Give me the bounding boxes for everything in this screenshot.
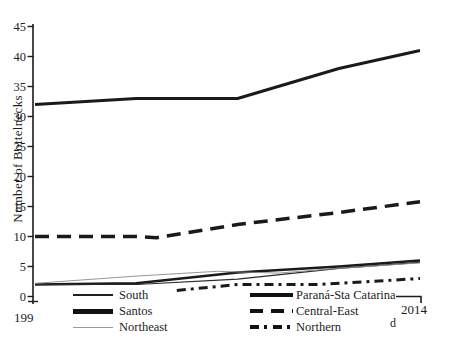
legend-left-column: South Santos Northeast — [73, 289, 168, 333]
y-tick-label: 40 — [14, 50, 27, 64]
northern-line-swatch — [250, 325, 293, 329]
series-line-santos — [35, 51, 420, 105]
series-line-central-east — [35, 202, 420, 238]
legend-label-santos: Santos — [119, 304, 152, 319]
x-tick-label-end: 2014 — [401, 302, 427, 318]
legend-label-northern: Northern — [296, 320, 341, 335]
figure-canvas: 051015202530354045 Number of Bottelnecks… — [0, 0, 453, 355]
legend-item-parana-sta-catarina: Paraná-Sta Catarina — [250, 289, 396, 301]
legend-item-northern: Northern — [250, 321, 396, 333]
y-tick-label: 5 — [20, 260, 26, 274]
santos-line-swatch — [73, 309, 113, 314]
series-line-paran-sta-catarina — [35, 261, 420, 285]
legend-label-northeast: Northeast — [119, 320, 168, 335]
parana-sta-catarina-line-swatch — [250, 293, 293, 297]
northeast-line-swatch — [73, 327, 113, 328]
legend-item-santos: Santos — [73, 305, 168, 317]
legend-label-south: South — [119, 288, 148, 303]
legend-label-central-east: Central-East — [296, 304, 358, 319]
legend-item-south: South — [73, 289, 168, 301]
x-tick-label-start: 199 — [14, 310, 34, 326]
central-east-line-swatch — [250, 309, 293, 313]
y-tick-label: 0 — [20, 290, 26, 304]
legend-item-northeast: Northeast — [73, 321, 168, 333]
legend-right-column: Paraná-Sta Catarina Central-East Norther… — [250, 289, 396, 333]
legend-item-central-east: Central-East — [250, 305, 396, 317]
y-tick-label: 45 — [14, 20, 27, 34]
south-line-swatch — [73, 294, 113, 296]
legend-label-parana-sta-catarina: Paraná-Sta Catarina — [296, 288, 396, 303]
y-axis-title: Number of Bottelnecks — [10, 80, 26, 238]
